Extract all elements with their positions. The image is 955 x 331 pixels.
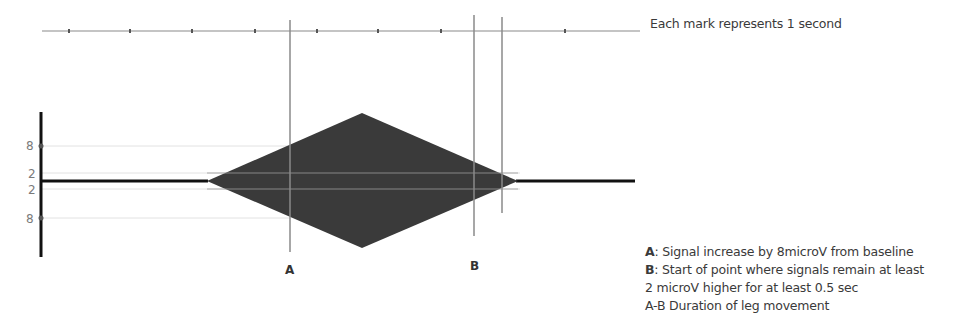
legend-row-b-cont: 2 microV higher for at least 0.5 sec <box>645 279 924 297</box>
y-label-plus-8: 8 <box>26 139 34 153</box>
legend-row-duration: A-B Duration of leg movement <box>645 297 924 315</box>
legend-row-b: B: Start of point where signals remain a… <box>645 261 924 279</box>
y-label-minus-2: 2 <box>28 183 36 197</box>
y-axis-dot-plus-8 <box>39 144 44 149</box>
legend-text-b-cont: 2 microV higher for at least 0.5 sec <box>645 280 858 295</box>
legend-text-duration: A-B Duration of leg movement <box>645 298 829 313</box>
marker-label-a: A <box>285 263 295 277</box>
y-axis-dot-minus-8 <box>39 216 44 221</box>
timeline-caption: Each mark represents 1 second <box>650 16 842 31</box>
legend-key-b: B <box>645 262 654 277</box>
legend-text-a: : Signal increase by 8microV from baseli… <box>654 244 913 259</box>
signal-burst-shape <box>207 113 518 248</box>
y-label-plus-2: 2 <box>28 167 36 181</box>
legend-row-a: A: Signal increase by 8microV from basel… <box>645 243 924 261</box>
legend: A: Signal increase by 8microV from basel… <box>645 243 924 315</box>
legend-text-b: : Start of point where signals remain at… <box>654 262 924 277</box>
marker-label-b: B <box>470 259 479 273</box>
y-label-minus-8: 8 <box>26 212 34 226</box>
